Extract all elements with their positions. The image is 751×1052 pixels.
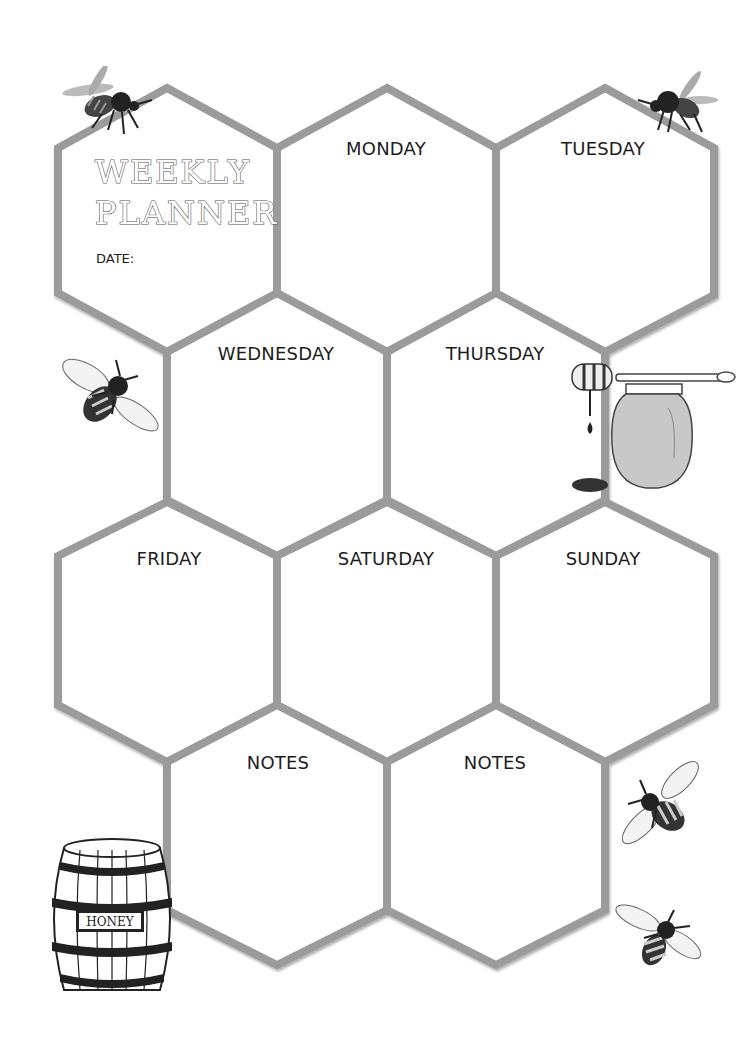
honey-barrel-icon: HONEY xyxy=(50,834,178,1000)
bee-icon-left xyxy=(58,352,166,436)
label-thursday: THURSDAY xyxy=(446,343,545,364)
label-wednesday: WEDNESDAY xyxy=(218,343,335,364)
bee-icon-top-right xyxy=(620,64,720,140)
bee-icon-top-left xyxy=(58,66,158,142)
label-monday: MONDAY xyxy=(346,138,426,159)
label-friday: FRIDAY xyxy=(137,548,202,569)
label-sunday: SUNDAY xyxy=(566,548,641,569)
hex-notes-1[interactable] xyxy=(167,705,387,965)
date-label: DATE: xyxy=(96,251,134,266)
label-saturday: SATURDAY xyxy=(338,548,434,569)
bee-icon-right-lower xyxy=(614,900,706,972)
planner-title-line1: WEEKLY xyxy=(95,153,251,191)
honey-jar-icon xyxy=(568,358,738,496)
hex-notes-2[interactable] xyxy=(387,705,605,965)
barrel-label: HONEY xyxy=(86,915,135,929)
bee-icon-right-upper xyxy=(612,754,704,854)
label-tuesday: TUESDAY xyxy=(561,138,645,159)
label-notes-2: NOTES xyxy=(464,752,526,773)
label-notes-1: NOTES xyxy=(247,752,309,773)
planner-title-line2: PLANNER xyxy=(95,194,278,232)
